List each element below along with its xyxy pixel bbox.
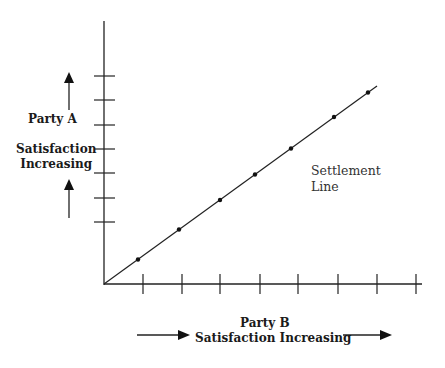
y-axis-label-party: Party A [28, 112, 77, 126]
settlement-label-line2: Line [311, 179, 381, 195]
settlement-label-line1: Settlement [311, 163, 381, 179]
x-axis-label-satisfaction: Satisfaction Increasing [195, 331, 351, 345]
arrow-up-icon [64, 179, 74, 218]
y-axis-label-line2: Satisfaction [16, 142, 96, 157]
x-axis-label-party: Party B [240, 316, 290, 330]
settlement-line-label: Settlement Line [311, 163, 381, 195]
y-axis-label-satisfaction: Satisfaction Increasing [16, 142, 96, 172]
arrow-up-icon [64, 72, 74, 110]
y-axis-label-line3: Increasing [16, 157, 96, 172]
arrow-right-icon [137, 330, 190, 340]
